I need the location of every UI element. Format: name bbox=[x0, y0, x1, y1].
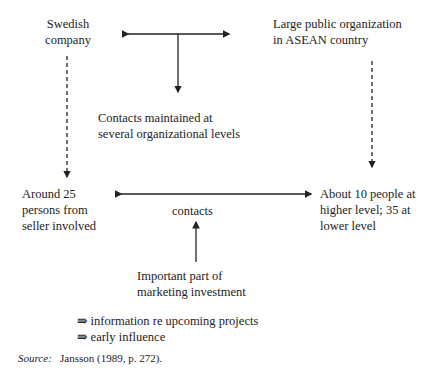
source-text: Jansson (1989, p. 272). bbox=[60, 352, 162, 364]
outcome-text: early influence bbox=[91, 330, 166, 344]
source-label: Source: bbox=[18, 352, 52, 364]
node-seller-persons: Around 25 persons from seller involved bbox=[22, 186, 122, 234]
node-marketing-investment: Important part of marketing investment bbox=[137, 268, 287, 300]
node-contacts-levels: Contacts maintained at several organizat… bbox=[98, 110, 288, 142]
outcome-item: ⇛ information re upcoming projects bbox=[77, 313, 337, 329]
implies-arrow-icon: ⇛ bbox=[77, 330, 87, 344]
node-asean-organization: Large public organization in ASEAN count… bbox=[273, 16, 438, 48]
node-swedish-company: Swedish company bbox=[38, 16, 98, 48]
source-citation: Source: Jansson (1989, p. 272). bbox=[18, 350, 318, 366]
node-buyer-people: About 10 people at higher level; 35 at l… bbox=[320, 186, 440, 234]
outcome-text: information re upcoming projects bbox=[91, 314, 259, 328]
outcome-item: ⇛ early influence bbox=[77, 329, 337, 345]
implies-arrow-icon: ⇛ bbox=[77, 314, 87, 328]
node-contacts: contacts bbox=[172, 203, 232, 219]
